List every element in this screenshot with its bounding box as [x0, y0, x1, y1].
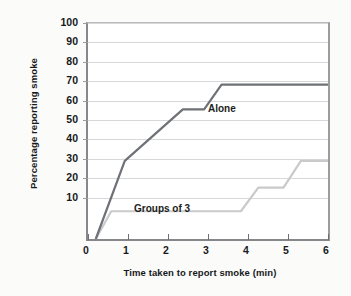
x-tick-label: 5 [274, 245, 298, 256]
x-axis-title: Time taken to report smoke (min) [60, 267, 340, 278]
y-tick-label: 70 [52, 75, 78, 86]
x-tick-label: 4 [234, 245, 258, 256]
y-tick-label: 10 [52, 191, 78, 202]
x-tick-label: 2 [154, 245, 178, 256]
x-tick-label: 1 [114, 245, 138, 256]
y-axis-title: Percentage reporting smoke [28, 29, 39, 219]
y-tick-label: 50 [52, 114, 78, 125]
y-tick-label: 80 [52, 56, 78, 67]
y-tick-label: 20 [52, 172, 78, 183]
y-tick-label: 40 [52, 133, 78, 144]
y-tick-label: 60 [52, 94, 78, 105]
series-line-groups-of-3 [96, 161, 328, 239]
x-tick-mark [328, 234, 329, 240]
y-tick-label: 90 [52, 36, 78, 47]
plot-area [86, 22, 330, 241]
x-tick-label: 0 [74, 245, 98, 256]
series-annotation-groups-of-3: Groups of 3 [134, 204, 190, 214]
series-plot [88, 23, 328, 239]
x-tick-label: 6 [314, 245, 338, 256]
series-annotation-alone: Alone [208, 104, 236, 114]
y-tick-label: 100 [52, 17, 78, 28]
y-tick-label: 30 [52, 153, 78, 164]
x-tick-label: 3 [194, 245, 218, 256]
chart-figure: Percentage reporting smoke 100 90 80 70 … [0, 0, 351, 296]
